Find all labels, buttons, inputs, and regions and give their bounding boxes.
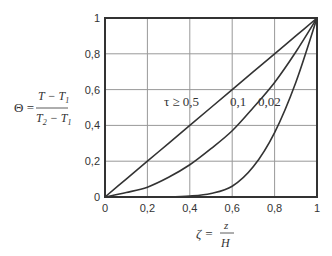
x-label-denominator: H <box>220 236 231 250</box>
curve-label-tau-0-5: τ ≥ 0,5 <box>164 94 199 109</box>
curve-label-tau-0-1: 0,1 <box>230 94 246 109</box>
y-label-denominator: T2 − T1 <box>36 111 71 127</box>
curves <box>105 18 317 197</box>
y-tick-label: 0,8 <box>85 48 100 60</box>
y-tick-label: 0,2 <box>85 155 100 167</box>
y-tick-labels: 00,20,40,60,81 <box>85 12 100 203</box>
x-axis-label: ζ = z H <box>196 219 234 250</box>
curve-label-tau-0-02: 0,02 <box>258 94 281 109</box>
x-tick-label: 0,4 <box>182 202 197 214</box>
y-label-lhs: Θ = <box>14 100 34 115</box>
chart: 00,20,40,60,81 00,20,40,60,81 τ ≥ 0,5 0,… <box>0 0 332 256</box>
x-tick-label: 0 <box>102 202 108 214</box>
x-tick-label: 0,2 <box>140 202 155 214</box>
x-label-numerator: z <box>223 219 229 231</box>
y-tick-label: 0,6 <box>85 84 100 96</box>
x-label-lhs: ζ = <box>196 226 213 241</box>
x-tick-label: 0,8 <box>267 202 282 214</box>
y-label-numerator: T − T1 <box>38 89 69 105</box>
y-axis-label: Θ = T − T1 T2 − T1 <box>14 89 71 127</box>
y-tick-label: 0 <box>94 191 100 203</box>
y-tick-label: 0,4 <box>85 119 100 131</box>
y-tick-label: 1 <box>94 12 100 24</box>
x-tick-label: 0,6 <box>225 202 240 214</box>
x-tick-labels: 00,20,40,60,81 <box>102 202 320 214</box>
x-tick-label: 1 <box>314 202 320 214</box>
